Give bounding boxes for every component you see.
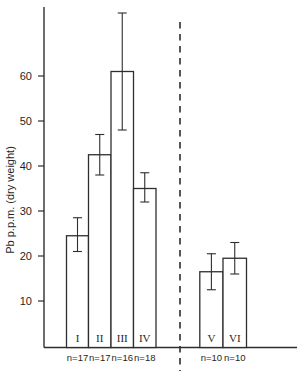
y-axis-title: Pb p.p.m. (dry weight)	[4, 146, 16, 254]
bar-group-label: IV	[139, 332, 151, 344]
y-axis-tick-label: 40	[20, 160, 32, 172]
bar-iv	[134, 189, 157, 348]
bar-group-label: V	[207, 332, 215, 344]
bar-i	[67, 236, 89, 348]
sample-size-label: n=16	[112, 352, 133, 363]
y-axis-tick-label: 20	[20, 250, 32, 262]
bar-group-label: II	[96, 332, 104, 344]
sample-size-label: n=10	[224, 352, 245, 363]
sample-size-label: n=17	[67, 352, 88, 363]
y-axis-tick-label: 10	[20, 295, 32, 307]
bar-ii	[89, 155, 112, 348]
y-axis-tick-label: 60	[20, 70, 32, 82]
bar-chart-figure: 102030405060Pb p.p.m. (dry weight)In=17I…	[0, 0, 303, 377]
sample-size-label: n=17	[89, 352, 110, 363]
bar-group-label: I	[76, 332, 80, 344]
y-axis-tick-label: 30	[20, 205, 32, 217]
sample-size-label: n=10	[201, 352, 222, 363]
bar-group-label: VI	[229, 332, 241, 344]
y-axis-tick-label: 50	[20, 115, 32, 127]
sample-size-label: n=18	[134, 352, 155, 363]
bar-group-label: III	[117, 332, 128, 344]
pb-bar-chart: 102030405060Pb p.p.m. (dry weight)In=17I…	[0, 0, 303, 377]
